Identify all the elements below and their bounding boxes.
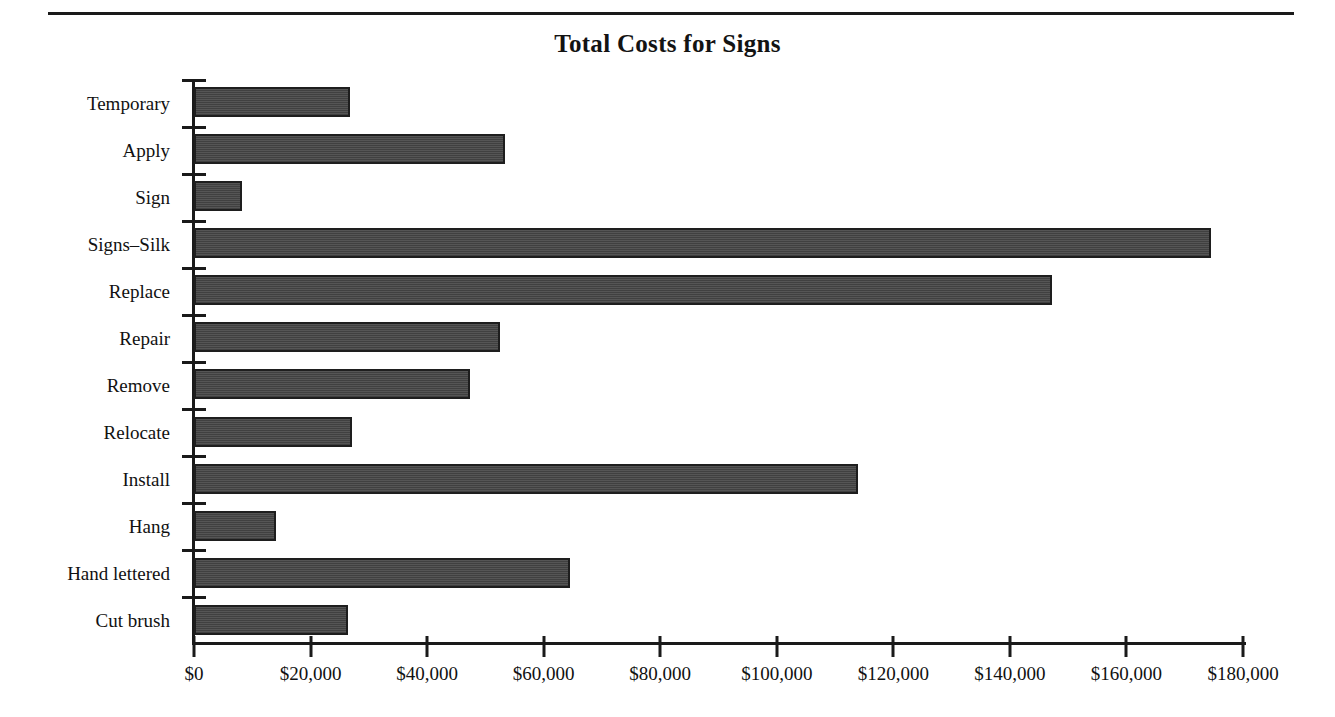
chart-page: Total Costs for Signs TemporaryApplySign… <box>0 0 1335 717</box>
value-tick <box>892 636 895 657</box>
plot-area <box>194 80 1243 645</box>
category-label: Cut brush <box>0 598 182 645</box>
category-tick <box>182 361 206 364</box>
category-tick <box>182 455 206 458</box>
value-tick <box>426 636 429 657</box>
bar-row <box>194 221 1243 268</box>
category-label: Hang <box>0 504 182 551</box>
value-tick <box>1242 636 1245 657</box>
value-tick <box>193 636 196 657</box>
category-axis-labels: TemporaryApplySignSigns–SilkReplaceRepai… <box>0 80 182 645</box>
value-tick <box>309 636 312 657</box>
category-label: Replace <box>0 268 182 315</box>
bar <box>194 322 500 352</box>
bar-row <box>194 410 1243 457</box>
bar <box>194 275 1052 305</box>
category-label: Hand lettered <box>0 551 182 598</box>
bar-row <box>194 457 1243 504</box>
value-tick-label: $140,000 <box>974 663 1045 685</box>
category-label: Signs–Silk <box>0 221 182 268</box>
bar-row <box>194 80 1243 127</box>
category-label: Temporary <box>0 80 182 127</box>
category-tick <box>182 220 206 223</box>
value-tick-label: $0 <box>185 663 204 685</box>
category-tick <box>182 549 206 552</box>
value-tick <box>659 636 662 657</box>
category-label: Sign <box>0 174 182 221</box>
bar <box>194 228 1211 258</box>
value-tick-label: $80,000 <box>629 663 691 685</box>
bar-row <box>194 598 1243 645</box>
category-tick <box>182 126 206 129</box>
category-tick <box>182 267 206 270</box>
category-label: Remove <box>0 362 182 409</box>
value-tick-label: $60,000 <box>513 663 575 685</box>
value-tick-label: $160,000 <box>1091 663 1162 685</box>
bar-row <box>194 504 1243 551</box>
category-tick <box>182 596 206 599</box>
bar <box>194 417 352 447</box>
bar-row <box>194 174 1243 221</box>
value-tick <box>775 636 778 657</box>
top-divider-rule <box>48 12 1294 15</box>
value-tick-label: $120,000 <box>858 663 929 685</box>
value-tick <box>1125 636 1128 657</box>
value-axis-ticks: $0$20,000$40,000$60,000$80,000$100,000$1… <box>194 645 1243 705</box>
category-label: Repair <box>0 315 182 362</box>
value-tick <box>1008 636 1011 657</box>
category-tick <box>182 408 206 411</box>
bar <box>194 511 276 541</box>
bar-row <box>194 268 1243 315</box>
bar <box>194 558 570 588</box>
bar <box>194 181 242 211</box>
value-tick-label: $40,000 <box>396 663 458 685</box>
bar-row <box>194 315 1243 362</box>
value-tick-label: $100,000 <box>741 663 812 685</box>
value-tick-label: $20,000 <box>280 663 342 685</box>
category-tick <box>182 502 206 505</box>
bar <box>194 605 348 635</box>
category-label: Relocate <box>0 410 182 457</box>
bar-row <box>194 127 1243 174</box>
bar-rows <box>194 80 1243 645</box>
bar <box>194 87 350 117</box>
value-tick-label: $180,000 <box>1207 663 1278 685</box>
category-label: Install <box>0 457 182 504</box>
chart-title: Total Costs for Signs <box>0 30 1335 58</box>
bar <box>194 134 505 164</box>
category-tick <box>182 314 206 317</box>
category-label: Apply <box>0 127 182 174</box>
bar-row <box>194 551 1243 598</box>
bar <box>194 464 858 494</box>
category-tick <box>182 79 206 82</box>
value-tick <box>542 636 545 657</box>
bar <box>194 369 470 399</box>
category-tick <box>182 173 206 176</box>
bar-row <box>194 362 1243 409</box>
